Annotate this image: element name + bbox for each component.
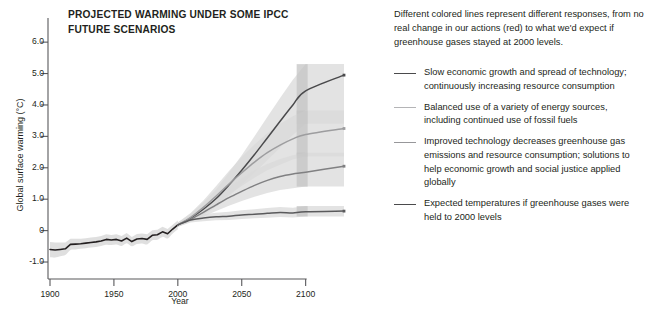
x-tick-label: 2100 <box>281 289 331 299</box>
legend-item: Slow economic growth and spread of techn… <box>394 66 646 93</box>
legend-line-icon <box>394 142 416 143</box>
description-panel: Different colored lines represent differ… <box>394 0 646 320</box>
legend-item-label: Balanced use of a variety of energy sour… <box>424 101 646 128</box>
legend-item-label: Expected temperatures if greenhouse gase… <box>424 197 646 224</box>
legend-swatch <box>394 135 424 148</box>
x-axis-title: Year <box>120 296 240 306</box>
legend-swatch <box>394 101 424 114</box>
chart-panel: PROJECTED WARMING UNDER SOME IPCC FUTURE… <box>0 0 372 320</box>
legend-item: Expected temperatures if greenhouse gase… <box>394 197 646 224</box>
legend-swatch <box>394 197 424 210</box>
legend-item-label: Slow economic growth and spread of techn… <box>424 66 646 93</box>
legend-line-icon <box>394 107 416 108</box>
x-axis-tick-labels: 19001950200020502100 <box>0 0 372 320</box>
y-axis-title: Global surface warming (°C) <box>15 55 25 255</box>
x-tick-label: 1900 <box>25 289 75 299</box>
chart-figure: PROJECTED WARMING UNDER SOME IPCC FUTURE… <box>0 0 646 320</box>
legend-line-icon <box>394 73 416 74</box>
legend-swatch <box>394 66 424 79</box>
legend-item: Balanced use of a variety of energy sour… <box>394 101 646 128</box>
legend: Slow economic growth and spread of techn… <box>394 66 646 232</box>
legend-item: Improved technology decreases greenhouse… <box>394 135 646 189</box>
legend-line-icon <box>394 204 416 205</box>
legend-item-label: Improved technology decreases greenhouse… <box>424 135 646 189</box>
intro-paragraph: Different colored lines represent differ… <box>394 7 644 50</box>
